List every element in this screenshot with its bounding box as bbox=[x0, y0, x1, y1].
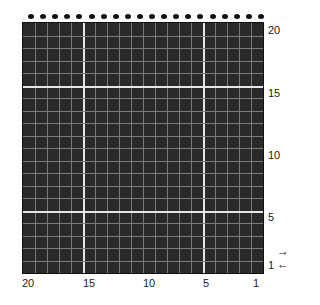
grid-row-line bbox=[23, 248, 263, 249]
bead-dot bbox=[101, 14, 107, 19]
column-label-5: 5 bbox=[203, 277, 209, 289]
grid-row-line bbox=[23, 236, 263, 237]
bead-dot bbox=[173, 14, 179, 19]
grid-row-line bbox=[23, 198, 263, 199]
arrow-right-icon: → bbox=[277, 244, 289, 258]
column-label-20: 20 bbox=[22, 277, 34, 289]
arrow-left-icon: ← bbox=[277, 257, 289, 271]
column-label-10: 10 bbox=[143, 277, 155, 289]
bead-dot bbox=[137, 14, 143, 19]
row-label-1: 1 bbox=[268, 259, 274, 271]
bead-dot bbox=[89, 14, 95, 19]
column-label-15: 15 bbox=[83, 277, 95, 289]
grid-row-line bbox=[23, 61, 263, 62]
grid-row-line bbox=[23, 161, 263, 162]
grid-row-line bbox=[23, 36, 263, 37]
row-label-5: 5 bbox=[268, 211, 274, 223]
bead-dot bbox=[76, 14, 82, 19]
bead-dot bbox=[234, 14, 240, 19]
row-label-20: 20 bbox=[268, 24, 280, 36]
bead-dot bbox=[161, 14, 167, 19]
chart-grid bbox=[22, 22, 264, 274]
row-label-15: 15 bbox=[268, 87, 280, 99]
grid-row-line bbox=[23, 123, 263, 124]
row-label-10: 10 bbox=[268, 149, 280, 161]
bead-dot bbox=[197, 14, 203, 19]
bead-dot bbox=[64, 14, 70, 19]
grid-row-line bbox=[23, 186, 263, 187]
grid-row-line bbox=[23, 148, 263, 149]
bead-dot bbox=[222, 14, 228, 19]
grid-row-line bbox=[23, 86, 263, 88]
grid-row-line bbox=[23, 73, 263, 74]
grid-row-line bbox=[23, 223, 263, 224]
bead-dot bbox=[52, 14, 58, 19]
grid-row-line bbox=[23, 136, 263, 137]
grid-row-line bbox=[23, 111, 263, 112]
bead-dot bbox=[40, 14, 46, 19]
grid-row-line bbox=[23, 98, 263, 99]
grid-row-line bbox=[23, 211, 263, 213]
grid-row-line bbox=[23, 261, 263, 262]
bead-dot bbox=[258, 14, 264, 19]
bead-dot bbox=[28, 14, 34, 19]
bead-dot bbox=[210, 14, 216, 19]
bead-dots-row bbox=[28, 14, 268, 20]
grid-row-line bbox=[23, 173, 263, 174]
grid-row-line bbox=[23, 48, 263, 49]
bead-dot bbox=[149, 14, 155, 19]
bead-dot bbox=[246, 14, 252, 19]
column-label-1: 1 bbox=[253, 277, 259, 289]
bead-dot bbox=[113, 14, 119, 19]
bead-dot bbox=[185, 14, 191, 19]
bead-dot bbox=[125, 14, 131, 19]
